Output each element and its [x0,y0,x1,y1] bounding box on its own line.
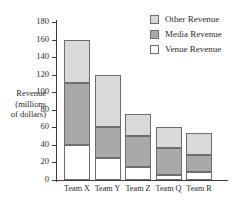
y-tick-label: 80 [41,104,50,115]
y-tick-label: 120 [36,69,49,80]
legend-label: Venue Revenue [165,44,221,55]
bar-segment-media [95,127,121,158]
bar-team-y [95,75,121,180]
y-axis-title-line-2: (millions [0,99,46,110]
y-tick-label: 60 [41,121,50,132]
y-tick-label: 0 [45,174,49,185]
legend-label: Media Revenue [165,29,222,40]
legend-item: Media Revenue [150,27,246,41]
bar-segment-media [186,155,212,172]
y-tick-label: 40 [41,139,50,150]
bar-segment-other [64,40,90,84]
y-tick-label: 140 [36,51,49,62]
bar-segment-other [186,133,212,156]
y-tick-label: 100 [36,86,49,97]
legend-item: Venue Revenue [150,42,246,56]
x-axis-line [56,180,228,181]
bar-segment-venue [156,175,182,180]
x-axis-label: Team R [177,184,221,194]
legend-swatch-icon [150,30,159,39]
bar-segment-other [125,114,151,136]
y-axis-title-line-3: of dollars) [0,109,46,120]
bar-segment-venue [186,172,212,180]
bar-segment-other [95,75,121,128]
bar-team-r [186,133,212,180]
legend-swatch-icon [150,45,159,54]
y-tick-mark [52,180,56,181]
bar-segment-other [156,127,182,148]
bar-segment-media [125,136,151,167]
bar-segment-venue [95,158,121,180]
y-tick-label: 160 [36,34,49,45]
bar-segment-media [156,148,182,174]
bar-segment-venue [64,145,90,180]
bar-segment-media [64,83,90,144]
legend-swatch-icon [150,15,159,24]
y-tick-label: 180 [36,16,49,27]
legend-item: Other Revenue [150,12,246,26]
bar-segment-venue [125,167,151,180]
bar-team-x [64,40,90,180]
bar-team-z [125,114,151,180]
legend-label: Other Revenue [165,14,219,25]
stacked-bar-chart: Revenue (millions of dollars) 0204060801… [0,0,247,210]
y-tick-label: 20 [41,156,50,167]
legend: Other RevenueMedia RevenueVenue Revenue [150,12,246,57]
bar-team-q [156,127,182,180]
